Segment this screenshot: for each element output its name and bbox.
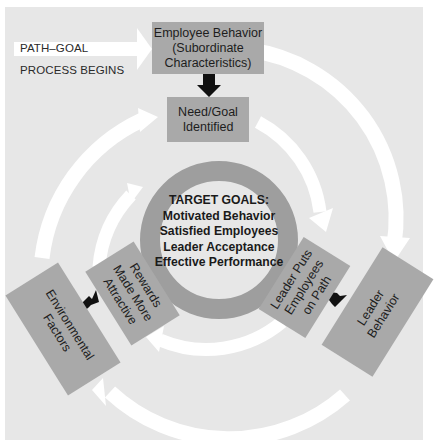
- outer-arc-bottom-arrowhead: [92, 378, 106, 406]
- down-arrow-icon: [197, 73, 221, 97]
- target-goal-item: Leader Acceptance: [151, 240, 287, 256]
- box-text: (Subordinate: [154, 41, 262, 56]
- target-goals-title: TARGET GOALS:: [151, 193, 287, 209]
- target-goal-item: Effective Performance: [151, 255, 287, 271]
- outer-arc-left-arrowhead: [138, 108, 158, 132]
- box-employee-behavior: Employee Behavior (Subordinate Character…: [152, 22, 264, 74]
- inner-arc-bottom-arrow-icon: [160, 322, 282, 349]
- target-goal-item: Motivated Behavior: [151, 209, 287, 225]
- outer-arc-left-arrow-icon: [42, 120, 142, 258]
- box-text: Characteristics): [154, 56, 262, 71]
- box-text: Employee Behavior: [154, 26, 262, 41]
- start-label-line1: PATH–GOAL: [20, 42, 88, 54]
- box-text: Need/Goal: [178, 105, 238, 120]
- start-label-line2: PROCESS BEGINS: [20, 64, 124, 76]
- box-text: Identified: [178, 120, 238, 135]
- target-goal-item: Satisfied Employees: [151, 224, 287, 240]
- target-goals: TARGET GOALS: Motivated Behavior Satisfi…: [151, 193, 287, 271]
- box-need-goal: Need/Goal Identified: [167, 97, 249, 142]
- outer-arc-bottom-arrow-icon: [110, 392, 345, 439]
